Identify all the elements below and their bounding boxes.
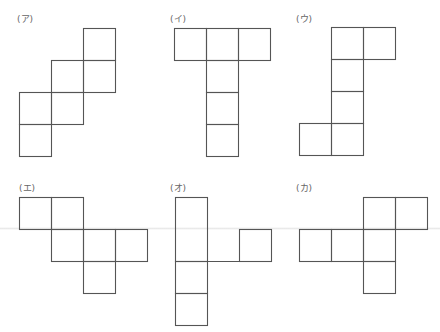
net-square — [84, 262, 116, 294]
net-square — [364, 262, 396, 294]
net-square — [396, 198, 428, 230]
net-square — [207, 93, 239, 125]
figure-label: (ウ) — [296, 12, 312, 25]
cube-net-5 — [300, 198, 428, 294]
cube-net-0 — [20, 29, 116, 157]
cube-net-3 — [20, 198, 148, 294]
figure-label: (イ) — [170, 12, 186, 25]
net-square — [20, 125, 52, 157]
net-square — [52, 61, 84, 93]
net-square — [84, 29, 116, 61]
net-square — [332, 230, 364, 262]
net-square — [332, 60, 364, 92]
net-square — [52, 198, 84, 230]
net-square — [20, 93, 52, 125]
net-square — [176, 294, 208, 326]
net-square — [176, 198, 208, 262]
net-square — [116, 230, 148, 262]
net-square — [176, 262, 208, 294]
figure-label: (カ) — [296, 181, 312, 194]
net-square — [332, 92, 364, 124]
net-square — [20, 198, 52, 230]
net-square — [332, 28, 364, 60]
net-square — [52, 93, 84, 125]
net-square — [240, 230, 272, 262]
net-square — [84, 230, 116, 262]
net-square — [364, 198, 396, 230]
net-square — [332, 124, 364, 156]
cube-net-4 — [176, 198, 272, 326]
net-square — [239, 29, 271, 61]
net-square — [207, 125, 239, 157]
cube-net-1 — [175, 29, 271, 157]
net-square — [52, 230, 84, 262]
net-square — [84, 61, 116, 93]
cube-net-diagrams — [0, 0, 440, 332]
figure-label: (オ) — [170, 181, 186, 194]
cube-net-2 — [300, 28, 396, 156]
net-square — [364, 28, 396, 60]
net-square — [300, 124, 332, 156]
net-square — [300, 230, 332, 262]
net-square — [364, 230, 396, 262]
net-square — [175, 29, 207, 61]
figure-label: (ア) — [17, 12, 33, 25]
net-square — [207, 29, 239, 61]
net-square — [207, 61, 239, 93]
figure-label: (エ) — [19, 181, 35, 194]
